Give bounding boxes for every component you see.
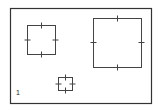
right-square bbox=[91, 16, 145, 71]
diagram-canvas bbox=[0, 0, 159, 110]
small-square bbox=[56, 75, 76, 94]
outer-frame bbox=[11, 9, 152, 104]
corner-label: 1 bbox=[16, 89, 20, 96]
left-square bbox=[25, 23, 59, 58]
